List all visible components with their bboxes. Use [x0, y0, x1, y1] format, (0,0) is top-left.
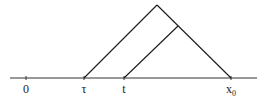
outer-right-edge [157, 5, 231, 78]
inner-edge [124, 26, 178, 78]
tick-label: τ [82, 82, 87, 96]
cone-lines [84, 5, 231, 78]
tick-label: t [122, 82, 126, 96]
tick-label: x0 [226, 82, 236, 98]
cone-diagram: 0τtx0 [0, 0, 268, 100]
diagram-canvas: 0τtx0 [0, 0, 268, 100]
axis-labels: 0τtx0 [23, 82, 236, 98]
outer-left-edge [84, 5, 157, 78]
tick-label: 0 [23, 82, 29, 96]
